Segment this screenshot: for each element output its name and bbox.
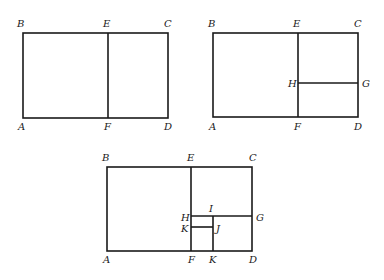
label-d: D [248,254,257,265]
label-i: I [208,203,214,214]
label-k-bottom: K [208,254,217,265]
label-d: D [163,121,172,132]
label-h: H [180,212,190,223]
figure-3: B E C I H G K J A F K D [101,152,264,265]
label-c: C [164,18,172,29]
label-e: E [292,18,301,29]
label-a: A [17,121,25,132]
rectangle-abcd [213,33,358,117]
label-g: G [362,78,370,89]
label-c: C [249,152,257,163]
label-e: E [186,152,195,163]
label-a: A [208,121,216,132]
label-e: E [102,18,111,29]
label-g: G [256,212,264,223]
label-f: F [103,121,112,132]
label-k-left: K [180,223,189,234]
label-b: B [101,152,109,163]
label-f: F [293,121,302,132]
label-d: D [353,121,362,132]
label-c: C [354,18,362,29]
rectangle-abcd [107,167,252,251]
figure-1: B E C A F D [16,18,172,132]
label-h: H [287,78,297,89]
golden-rectangle-diagram: B E C A F D B E C H G A F D B E C I H G … [0,0,384,280]
label-a: A [102,254,110,265]
rectangle-abcd [23,33,168,118]
label-f: F [187,254,196,265]
label-b: B [207,18,215,29]
label-b: B [16,18,24,29]
figure-2: B E C H G A F D [207,18,370,132]
label-j: J [214,223,221,234]
